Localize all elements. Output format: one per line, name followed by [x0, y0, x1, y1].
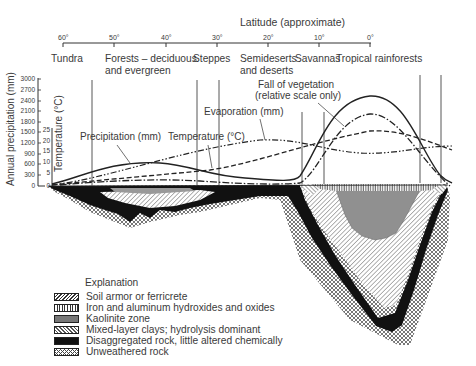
lat-tick-20: 20°: [263, 34, 274, 41]
zone-forests-line2: and evergreen: [105, 65, 171, 76]
legend-label: Disaggregated rock, little altered chemi…: [86, 335, 282, 346]
precipitation-axis: Annual precipitation (mm) 3000 2700 2400…: [5, 72, 45, 189]
legend-item-mixed-clays: Mixed-layer clays; hydrolysis dominant: [54, 324, 282, 335]
precip-tick: 2100: [21, 107, 36, 114]
label-temperature: Temperature (°C): [168, 131, 245, 142]
latitude-axis: Latitude (approximate) 60° 50° 40° 30° 2…: [58, 16, 374, 47]
vegetation-fall-curve: [60, 114, 450, 186]
precip-tick: 900: [24, 150, 35, 157]
precip-tick: 3000: [21, 75, 36, 82]
lat-tick-30: 30°: [212, 34, 223, 41]
temp-tick: 25: [43, 126, 51, 133]
lat-tick-10: 10°: [314, 34, 325, 41]
temperature-axis: Temperature (°C) 25 20 15 10 5 0: [43, 95, 64, 189]
lat-tick-50: 50°: [109, 34, 120, 41]
kaolinite-swatch-icon: [54, 315, 79, 323]
mixed-clays-swatch-icon: [54, 326, 79, 334]
legend-item-kaolinite: Kaolinite zone: [54, 313, 282, 324]
label-precipitation: Precipitation (mm): [80, 131, 161, 142]
temp-axis-label: Temperature (°C): [53, 95, 64, 172]
zone-tundra: Tundra: [51, 53, 83, 64]
unweathered-rock-swatch-icon: [54, 348, 79, 356]
disaggregated-rock-swatch-icon: [54, 337, 79, 345]
label-vegetation-line2: (relative scale only): [255, 90, 341, 101]
latitude-axis-title: Latitude (approximate): [240, 16, 345, 28]
curve-annotations: Precipitation (mm) Temperature (°C) Evap…: [80, 79, 344, 168]
precip-axis-label: Annual precipitation (mm): [5, 72, 16, 186]
precip-tick: 300: [24, 171, 35, 178]
zone-semideserts: Semideserts: [240, 53, 297, 64]
zone-labels: Tundra Forests – deciduous and evergreen…: [51, 53, 422, 76]
legend-item-iron-hydroxides: Iron and aluminum hydroxides and oxides: [54, 302, 282, 313]
zone-steppes: Steppes: [193, 53, 230, 64]
legend-label: Soil armor or ferricrete: [86, 291, 187, 302]
precip-tick: 1500: [21, 128, 36, 135]
legend-label: Unweathered rock: [86, 346, 169, 357]
legend-item-unweathered-rock: Unweathered rock: [54, 346, 282, 357]
iron-hydroxides-swatch-icon: [54, 304, 79, 312]
temp-tick: 10: [43, 158, 51, 165]
lat-tick-0: 0°: [367, 34, 374, 41]
legend-label: Iron and aluminum hydroxides and oxides: [86, 302, 275, 313]
soil-armor-swatch-icon: [54, 293, 79, 301]
legend-item-soil-armor: Soil armor or ferricrete: [54, 291, 282, 302]
precip-tick: 600: [24, 160, 35, 167]
precip-tick: 1800: [21, 118, 36, 125]
zone-forests: Forests – deciduous: [105, 53, 197, 64]
label-vegetation-line1: Fall of vegetation: [258, 79, 334, 90]
legend-label: Kaolinite zone: [86, 313, 150, 324]
legend-item-disaggregated-rock: Disaggregated rock, little altered chemi…: [54, 335, 282, 346]
temp-tick: 20: [43, 137, 51, 144]
zone-savannas: Savannas: [295, 53, 340, 64]
label-evaporation: Evaporation (mm): [204, 106, 283, 117]
lat-tick-40: 40°: [161, 34, 172, 41]
legend-label: Mixed-layer clays; hydrolysis dominant: [86, 324, 260, 335]
legend-title: Explanation: [85, 277, 282, 288]
precip-tick: 2400: [21, 97, 36, 104]
zone-semideserts-line2: and deserts: [240, 65, 293, 76]
precip-tick: 0: [31, 182, 35, 189]
precip-tick: 2700: [21, 86, 36, 93]
temp-tick: 15: [43, 147, 51, 154]
lat-tick-60: 60°: [58, 34, 69, 41]
legend: Explanation Soil armor or ferricrete Iro…: [54, 277, 282, 357]
temp-tick: 0: [46, 182, 50, 189]
temp-tick: 5: [46, 169, 50, 176]
precip-tick: 1200: [21, 139, 36, 146]
zone-tropical-rainforests: Tropical rainforests: [336, 53, 422, 64]
